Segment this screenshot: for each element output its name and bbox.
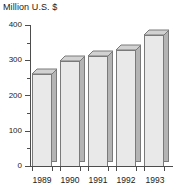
x-tick-6 — [116, 167, 117, 171]
x-tick-9 — [164, 167, 165, 171]
bar-chart: Million U.S. $ 400 300 200 100 0 — [0, 0, 177, 195]
x-tick-label-1991: 1991 — [84, 175, 112, 185]
x-tick-5 — [108, 167, 109, 171]
x-tick-label-1989: 1989 — [28, 175, 56, 185]
x-tick-0 — [32, 167, 33, 171]
x-tick-4 — [88, 167, 89, 171]
x-tick-3 — [80, 167, 81, 171]
bar-1992 — [116, 0, 142, 167]
bar-1991-top — [88, 0, 114, 167]
y-tick-label-200: 200 — [0, 92, 22, 100]
bar-1990-top — [60, 0, 86, 167]
x-tick-8 — [144, 167, 145, 171]
y-tick-label-300: 300 — [0, 56, 22, 64]
y-tick-label-400: 400 — [0, 21, 22, 29]
bar-1989-top — [32, 0, 58, 167]
x-tick-1 — [52, 167, 53, 171]
y-tick-label-100: 100 — [0, 127, 22, 135]
y-axis-line — [30, 25, 31, 167]
x-tick-7 — [136, 167, 137, 171]
plot-area: 400 300 200 100 0 — [0, 0, 177, 195]
bar-1992-top — [116, 0, 142, 167]
bar-1993-top — [144, 0, 170, 167]
bar-1990 — [60, 0, 86, 167]
x-tick-label-1992: 1992 — [112, 175, 140, 185]
x-tick-label-1990: 1990 — [56, 175, 84, 185]
x-tick-2 — [60, 167, 61, 171]
y-tick-label-0: 0 — [0, 162, 22, 170]
bar-1991 — [88, 0, 114, 167]
x-tick-label-1993: 1993 — [140, 175, 170, 185]
bar-1989 — [32, 0, 58, 167]
bar-1993 — [144, 0, 170, 167]
